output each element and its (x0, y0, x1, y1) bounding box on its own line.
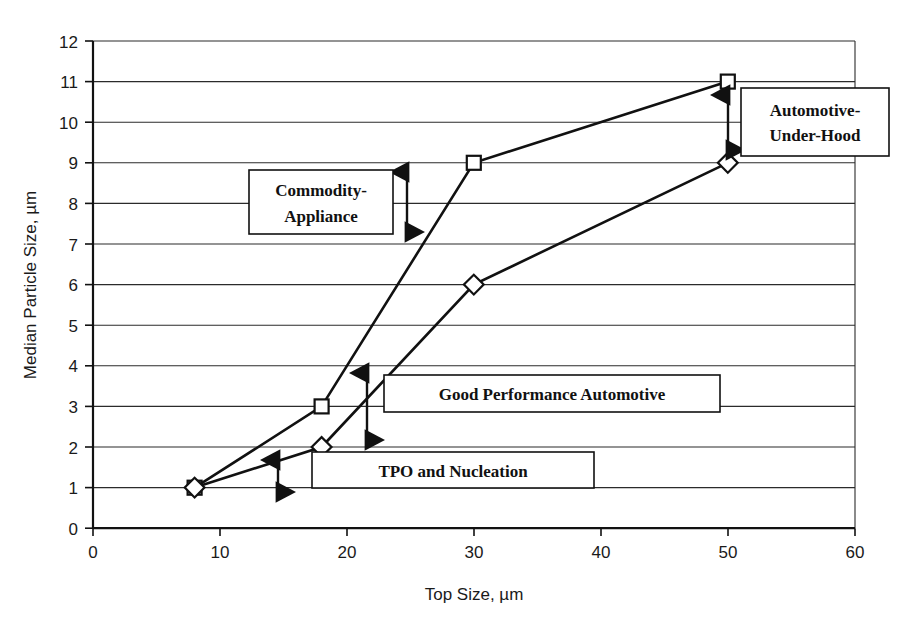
x-axis-ticks (93, 528, 855, 536)
chart-container: 12 11 10 9 8 7 6 5 4 3 2 1 0 0 10 (0, 0, 897, 621)
x-tick-label: 10 (211, 543, 230, 562)
y-tick-label: 8 (69, 195, 78, 214)
chart-canvas: 12 11 10 9 8 7 6 5 4 3 2 1 0 0 10 (0, 0, 897, 621)
data-point-square (467, 156, 481, 170)
y-axis-ticks (85, 41, 93, 528)
annotation-automotive-under-hood: Automotive- Under-Hood (728, 88, 889, 156)
x-axis-tick-labels: 0 10 20 30 40 50 60 (88, 543, 864, 562)
annotation-label-line1: Automotive- (770, 101, 861, 120)
y-axis-tick-labels: 12 11 10 9 8 7 6 5 4 3 2 1 0 (59, 33, 78, 539)
y-tick-label: 11 (60, 73, 78, 92)
y-tick-label: 7 (69, 236, 78, 255)
y-tick-label: 6 (69, 276, 78, 295)
x-tick-label: 20 (338, 543, 357, 562)
x-tick-label: 40 (592, 543, 611, 562)
annotation-label-line1: Commodity- (275, 181, 367, 200)
y-axis-title: Median Particle Size, µm (21, 191, 40, 379)
data-point-square (721, 75, 735, 89)
y-tick-label: 1 (69, 479, 78, 498)
annotation-label-line2: Appliance (284, 207, 358, 226)
x-axis-title: Top Size, µm (425, 585, 524, 604)
y-tick-label: 0 (69, 520, 78, 539)
y-tick-label: 4 (69, 357, 78, 376)
annotation-label-line2: Under-Hood (770, 126, 862, 145)
annotation-commodity-appliance: Commodity- Appliance (249, 170, 407, 234)
annotation-tpo-and-nucleation: TPO and Nucleation (278, 452, 594, 492)
annotation-label-line1: TPO and Nucleation (378, 462, 528, 481)
x-tick-label: 30 (465, 543, 484, 562)
x-tick-label: 50 (719, 543, 738, 562)
x-tick-label: 60 (846, 543, 865, 562)
y-tick-label: 3 (69, 398, 78, 417)
y-tick-label: 9 (69, 154, 78, 173)
y-tick-label: 2 (69, 439, 78, 458)
y-tick-label: 12 (59, 33, 78, 52)
data-point-square (315, 399, 329, 413)
y-tick-label: 5 (69, 317, 78, 336)
annotation-box (741, 88, 889, 156)
y-tick-label: 10 (59, 114, 78, 133)
x-tick-label: 0 (88, 543, 97, 562)
annotation-label-line1: Good Performance Automotive (439, 385, 666, 404)
